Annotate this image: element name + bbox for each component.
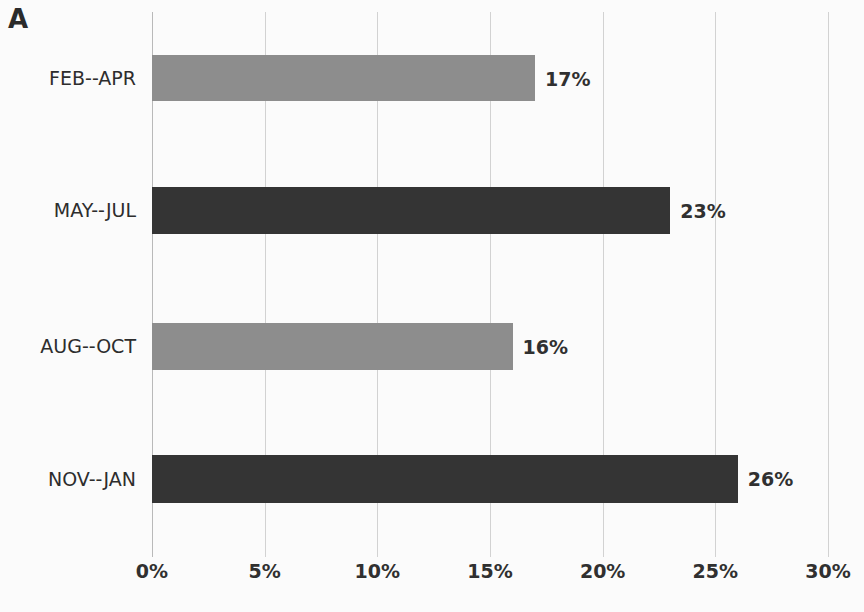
x-tick-label-3: 15% — [467, 560, 512, 582]
bar-value-label-2: 16% — [523, 336, 568, 358]
x-tick-label-1: 5% — [249, 560, 281, 582]
bar-nov-jan — [152, 455, 738, 503]
gridline-30 — [828, 12, 829, 557]
category-label-1: MAY--JUL — [54, 199, 136, 221]
bar-value-label-1: 23% — [680, 200, 725, 222]
bar-value-label-3: 26% — [748, 468, 793, 490]
x-tick-label-6: 30% — [805, 560, 850, 582]
x-tick-label-2: 10% — [355, 560, 400, 582]
x-tick-label-5: 25% — [693, 560, 738, 582]
bar-aug-oct — [152, 323, 513, 370]
bar-may-jul — [152, 187, 670, 234]
x-tick-label-0: 0% — [136, 560, 168, 582]
category-axis-labels: FEB--APR MAY--JUL AUG--OCT NOV--JAN — [0, 0, 136, 612]
bar-feb-apr — [152, 55, 535, 101]
category-label-0: FEB--APR — [49, 67, 136, 89]
chart-figure: A FEB--APR MAY--JUL AUG--OCT NOV--JAN 17… — [0, 0, 864, 612]
x-tick-label-4: 20% — [580, 560, 625, 582]
plot-area: 17% 23% 16% 26% — [152, 12, 828, 545]
bar-value-label-0: 17% — [545, 68, 590, 90]
category-label-3: NOV--JAN — [48, 468, 136, 490]
category-label-2: AUG--OCT — [40, 335, 136, 357]
